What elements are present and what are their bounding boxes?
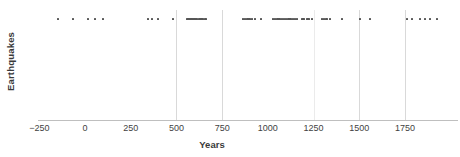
x-tick-500: 500 <box>169 123 184 133</box>
y-axis-title-text: Earthquakes <box>6 31 17 90</box>
x-tick-750: 750 <box>215 123 230 133</box>
data-point <box>260 18 262 20</box>
data-point <box>406 18 408 20</box>
data-point <box>254 18 256 20</box>
data-point <box>172 18 174 20</box>
data-point <box>94 18 96 20</box>
data-point <box>296 18 298 20</box>
data-point <box>411 18 413 20</box>
data-point <box>429 18 431 20</box>
x-tick-1500: 1500 <box>349 123 369 133</box>
data-point <box>157 18 159 20</box>
data-point <box>369 18 371 20</box>
data-point <box>424 18 426 20</box>
data-point <box>325 18 327 20</box>
gridline-500 <box>176 10 177 120</box>
data-point <box>102 18 104 20</box>
gridline-1750 <box>405 10 406 120</box>
gridline-750 <box>222 10 223 120</box>
x-axis-title-text: Years <box>199 139 224 150</box>
data-point <box>251 18 253 20</box>
x-axis-line <box>38 120 458 121</box>
y-axis-title: Earthquakes <box>2 0 20 122</box>
x-axis-title: Years <box>0 139 460 150</box>
data-point <box>72 18 74 20</box>
data-point <box>436 18 438 20</box>
x-tick-1750: 1750 <box>395 123 415 133</box>
x-tick-250: 250 <box>123 123 138 133</box>
x-tick-1000: 1000 <box>258 123 278 133</box>
gridline-1500 <box>359 10 360 120</box>
data-point <box>57 18 59 20</box>
x-tick-0: 0 <box>82 123 87 133</box>
data-point <box>302 18 304 20</box>
data-point <box>205 18 207 20</box>
earthquake-timeline-chart: Earthquakes −250025050075010001250150017… <box>0 0 460 157</box>
plot-area <box>38 10 458 120</box>
gridline-1250 <box>314 10 315 120</box>
data-point <box>341 18 343 20</box>
x-tick--250: −250 <box>29 123 49 133</box>
data-point <box>419 18 421 20</box>
data-point <box>307 18 309 20</box>
x-axis-tick-labels: −25002505007501000125015001750 <box>0 123 460 137</box>
data-point <box>87 18 89 20</box>
x-tick-1250: 1250 <box>304 123 324 133</box>
data-point <box>151 18 153 20</box>
data-point <box>329 18 331 20</box>
data-point <box>147 18 149 20</box>
